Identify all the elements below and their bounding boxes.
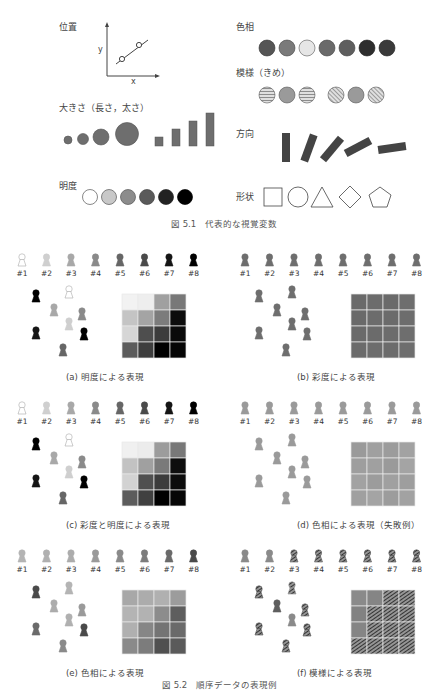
- person-icon: [92, 550, 100, 562]
- grid-cell: [399, 490, 415, 506]
- icon-id-label: #5: [337, 269, 348, 278]
- person-icon: [78, 308, 86, 320]
- grid-cell: [138, 490, 154, 506]
- shape-outlines: [263, 186, 403, 210]
- icon-id-label: #7: [163, 417, 174, 426]
- hue-circles: [258, 37, 398, 59]
- person-icon: [266, 402, 274, 414]
- icon-id-label: #5: [337, 565, 348, 574]
- person-icon: [65, 466, 73, 478]
- grid-cell: [367, 590, 383, 606]
- axis-x-label: x: [131, 77, 136, 86]
- grid-cell: [170, 590, 186, 606]
- grid-cell: [154, 326, 170, 342]
- grid-cell: [351, 326, 367, 342]
- person-icon: [141, 402, 149, 414]
- grid-cell: [367, 490, 383, 506]
- person-icon: [288, 582, 296, 594]
- grid-cell: [367, 458, 383, 474]
- icon-id-label: #5: [114, 565, 125, 574]
- person-icon: [241, 254, 249, 266]
- grid-cell: [383, 474, 399, 490]
- icon-id-label: #8: [188, 269, 199, 278]
- person-icon: [255, 438, 263, 450]
- grid-cell: [138, 294, 154, 310]
- grid-cell: [170, 310, 186, 326]
- icon-id-label: #8: [411, 417, 422, 426]
- grid-cell: [383, 458, 399, 474]
- icon-id-label: #3: [65, 417, 76, 426]
- icon-id-label: #7: [386, 269, 397, 278]
- grid-cell: [383, 310, 399, 326]
- orientation-bars: [280, 131, 410, 171]
- grid-cell: [138, 606, 154, 622]
- icon-id-label: #1: [239, 565, 250, 574]
- grid-cell: [367, 638, 383, 654]
- icon-id-label: #6: [139, 417, 150, 426]
- icon-id-label: #4: [313, 269, 324, 278]
- label-texture: 模様（きめ）: [236, 66, 290, 79]
- grid-cell: [367, 474, 383, 490]
- person-icon: [80, 328, 88, 340]
- label-shape: 形状: [236, 190, 254, 203]
- grid-cell: [122, 342, 138, 358]
- panel-caption: (e) 色相による表現: [66, 666, 144, 678]
- grid-cell: [367, 310, 383, 326]
- grid-cell: [351, 310, 367, 326]
- person-icon: [18, 402, 26, 414]
- icon-id-label: #3: [288, 417, 299, 426]
- icon-id-label: #4: [90, 269, 101, 278]
- icon-id-label: #7: [163, 269, 174, 278]
- person-icon: [282, 640, 290, 652]
- person-icon: [288, 614, 296, 626]
- icon-id-label: #1: [239, 417, 250, 426]
- grid-cell: [170, 294, 186, 310]
- grid-cell: [122, 326, 138, 342]
- person-icon: [141, 550, 149, 562]
- grid-cell: [170, 638, 186, 654]
- label-lightness: 明度: [59, 179, 77, 192]
- icon-id-label: #1: [16, 565, 27, 574]
- person-icon: [273, 304, 281, 316]
- figure-5-2-caption: 図 5.2 順序データの表現例: [162, 678, 277, 690]
- person-icon: [43, 550, 51, 562]
- label-hue: 色相: [236, 20, 254, 33]
- grid-cell: [383, 442, 399, 458]
- grid-cell: [138, 622, 154, 638]
- person-icon: [190, 402, 198, 414]
- grid-cell: [383, 342, 399, 358]
- person-icon: [303, 328, 311, 340]
- person-icon: [165, 550, 173, 562]
- icon-id-label: #3: [288, 269, 299, 278]
- grid-cell: [399, 474, 415, 490]
- grid-cell: [351, 474, 367, 490]
- grid-cell: [399, 622, 415, 638]
- grid-cell: [138, 310, 154, 326]
- person-icon: [141, 254, 149, 266]
- person-icon: [92, 254, 100, 266]
- icon-id-label: #7: [386, 565, 397, 574]
- grid-cell: [351, 458, 367, 474]
- person-icon: [65, 318, 73, 330]
- grid-cell: [367, 342, 383, 358]
- lightness-circles: [80, 186, 200, 208]
- grid-cell: [122, 622, 138, 638]
- person-icon: [315, 254, 323, 266]
- person-icon: [43, 254, 51, 266]
- person-icon: [315, 402, 323, 414]
- person-icon: [67, 254, 75, 266]
- figure-5-1-caption: 図 5.1 代表的な視覚変数: [171, 217, 277, 229]
- icon-id-label: #8: [188, 565, 199, 574]
- icon-id-label: #2: [41, 269, 52, 278]
- icon-id-label: #1: [16, 417, 27, 426]
- person-icon: [255, 290, 263, 302]
- icon-id-label: #2: [264, 417, 275, 426]
- icon-id-label: #1: [239, 269, 250, 278]
- grid-cell: [170, 458, 186, 474]
- person-icon: [67, 402, 75, 414]
- person-icon: [190, 550, 198, 562]
- position-scatter-plot: [100, 22, 160, 82]
- grid-cell: [383, 326, 399, 342]
- grid-cell: [138, 458, 154, 474]
- grid-cell: [383, 622, 399, 638]
